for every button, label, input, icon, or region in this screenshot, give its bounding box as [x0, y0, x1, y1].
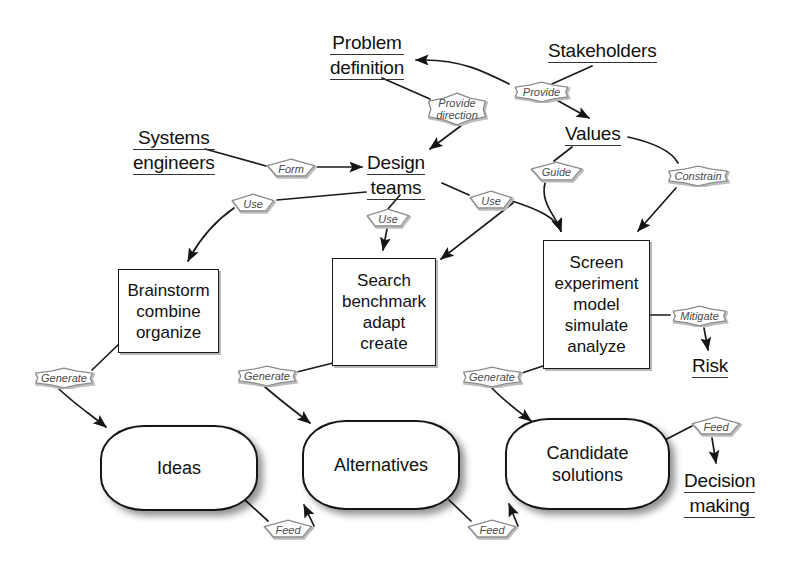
process-line: organize	[136, 323, 201, 342]
process-line: Brainstorm	[127, 281, 209, 300]
store-line: Candidate	[546, 443, 628, 463]
concept-line: definition	[330, 57, 404, 80]
relation-cloud-mitigate[interactable]: Mitigate	[668, 305, 731, 327]
relation-cloud-provide-direction[interactable]: Provide direction	[423, 92, 491, 126]
relation-label: Guide	[540, 166, 573, 178]
edge-generate-alternatives-store	[265, 387, 310, 423]
edge-constrain-screen	[638, 188, 676, 231]
store-label: Candidate solutions	[546, 442, 628, 486]
process-line: experiment	[554, 274, 638, 293]
process-box-search[interactable]: Search benchmark adapt create	[332, 258, 436, 366]
process-line: adapt	[363, 313, 406, 332]
process-line: combine	[136, 302, 200, 321]
relation-label: Use	[241, 198, 265, 210]
edge-use-screen-box	[512, 201, 561, 231]
concept-problem-definition[interactable]: Problem definition	[330, 32, 404, 82]
edge-alternatives-feed	[449, 500, 471, 521]
relation-line: Provide	[438, 97, 475, 109]
concept-line: teams	[367, 177, 425, 200]
relation-cloud-feed-decision[interactable]: Feed	[690, 416, 742, 437]
relation-cloud-provide[interactable]: Provide	[510, 81, 573, 103]
relation-label: Form	[276, 163, 306, 175]
edge-use-brainstorm-box	[188, 208, 234, 261]
process-line: Screen	[570, 253, 624, 272]
process-box-label: Screen experiment model simulate analyze	[550, 252, 642, 357]
relation-cloud-guide[interactable]: Guide	[529, 161, 584, 183]
edge-feed-decision-making	[712, 438, 716, 463]
relation-line: direction	[436, 109, 478, 121]
process-line: benchmark	[342, 292, 426, 311]
process-line: analyze	[567, 337, 626, 356]
relation-label: Constrain	[672, 170, 723, 182]
store-label: Alternatives	[334, 454, 428, 476]
concept-line: Decision	[684, 470, 755, 493]
process-box-screen[interactable]: Screen experiment model simulate analyze	[543, 240, 650, 369]
process-box-label: Search benchmark adapt create	[338, 270, 430, 354]
relation-label: Generate	[39, 372, 89, 384]
concept-line: making	[684, 495, 755, 518]
relation-cloud-generate-ideas[interactable]: Generate	[30, 367, 98, 389]
store-line: solutions	[552, 465, 623, 485]
concept-line: Risk	[692, 355, 728, 378]
edge-guide-screen	[544, 183, 561, 231]
concept-stakeholders[interactable]: Stakeholders	[548, 40, 657, 65]
relation-cloud-constrain[interactable]: Constrain	[663, 165, 733, 187]
edge-use-search-box	[383, 229, 387, 250]
relation-cloud-use-brainstorm[interactable]: Use	[230, 193, 276, 214]
concept-design-teams[interactable]: Design teams	[367, 152, 425, 202]
concept-values[interactable]: Values	[565, 123, 621, 148]
relation-cloud-use-search[interactable]: Use	[365, 208, 411, 229]
concept-risk[interactable]: Risk	[692, 355, 728, 380]
process-box-brainstorm[interactable]: Brainstorm combine organize	[118, 269, 219, 353]
relation-label: Generate	[467, 371, 517, 383]
edge-generate-ideas-store	[58, 388, 106, 427]
relation-cloud-feed-alternatives[interactable]: Feed	[262, 519, 314, 540]
concept-line: engineers	[133, 152, 215, 175]
concept-line: Design	[367, 152, 425, 175]
edge-design-teams-use-screen	[442, 183, 469, 195]
relation-label: Generate	[242, 370, 292, 382]
edge-values-guide	[554, 147, 572, 161]
relation-label: Use	[479, 195, 503, 207]
store-alternatives[interactable]: Alternatives	[302, 420, 460, 510]
concept-line: Problem	[330, 32, 404, 55]
relation-cloud-use-screen[interactable]: Use	[468, 190, 514, 211]
concept-line: Stakeholders	[548, 40, 657, 63]
relation-cloud-generate-alternatives[interactable]: Generate	[233, 365, 301, 387]
relation-cloud-feed-candidates[interactable]: Feed	[466, 519, 518, 540]
edge-use-screen-search-box	[441, 203, 513, 259]
relation-label: Provide direction	[434, 97, 480, 121]
relation-label: Feed	[477, 524, 506, 536]
concept-map-canvas: Problem definition Stakeholders Values S…	[0, 0, 796, 569]
concept-decision-making[interactable]: Decision making	[684, 470, 755, 520]
relation-label: Provide	[521, 86, 562, 98]
process-line: simulate	[565, 316, 628, 335]
relation-label: Feed	[273, 524, 302, 536]
relation-label: Feed	[701, 421, 730, 433]
edge-provide-problem-definition	[416, 60, 509, 84]
process-line: model	[573, 295, 619, 314]
edge-design-teams-use-brainstorm	[277, 192, 366, 200]
relation-cloud-generate-candidates[interactable]: Generate	[458, 366, 526, 388]
process-line: create	[360, 334, 407, 353]
relation-cloud-form[interactable]: Form	[265, 158, 317, 179]
edge-direction-design-teams	[430, 125, 462, 149]
concept-line: Values	[565, 123, 621, 146]
edge-search-generate	[297, 363, 333, 372]
store-ideas[interactable]: Ideas	[100, 425, 258, 511]
relation-label: Use	[376, 213, 400, 225]
store-candidate-solutions[interactable]: Candidate solutions	[505, 418, 670, 510]
process-line: Search	[357, 271, 411, 290]
edge-generate-candidates-store	[492, 388, 531, 421]
edge-values-constrain	[628, 137, 678, 163]
concept-line: Systems	[133, 127, 215, 150]
concept-systems-engineers[interactable]: Systems engineers	[133, 127, 215, 177]
edge-ideas-feed	[245, 500, 268, 521]
relation-label: Mitigate	[678, 310, 721, 322]
edge-mitigate-risk	[704, 328, 708, 350]
process-box-label: Brainstorm combine organize	[123, 280, 213, 343]
store-label: Ideas	[157, 457, 201, 479]
